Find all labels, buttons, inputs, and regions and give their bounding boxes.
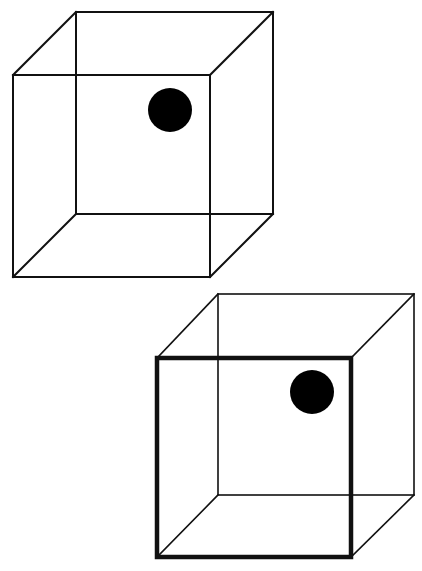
- cube-edge-top-left: [13, 12, 76, 75]
- cube-bottom-disambiguated: [157, 294, 414, 557]
- black-dot-icon: [290, 370, 334, 414]
- cube-edge-top-right: [210, 12, 273, 75]
- cube-edge-bottom-left: [157, 495, 218, 557]
- cube-top-ambiguous: [13, 12, 273, 277]
- cube-edge-bottom-right: [351, 495, 414, 557]
- necker-cube-figure: [0, 0, 422, 571]
- cube-edge-bottom-right: [210, 214, 273, 277]
- cube-edge-bottom-left: [13, 214, 76, 277]
- black-dot-icon: [148, 88, 192, 132]
- cube-edge-top-right: [351, 294, 414, 358]
- cube-edge-top-left: [157, 294, 218, 358]
